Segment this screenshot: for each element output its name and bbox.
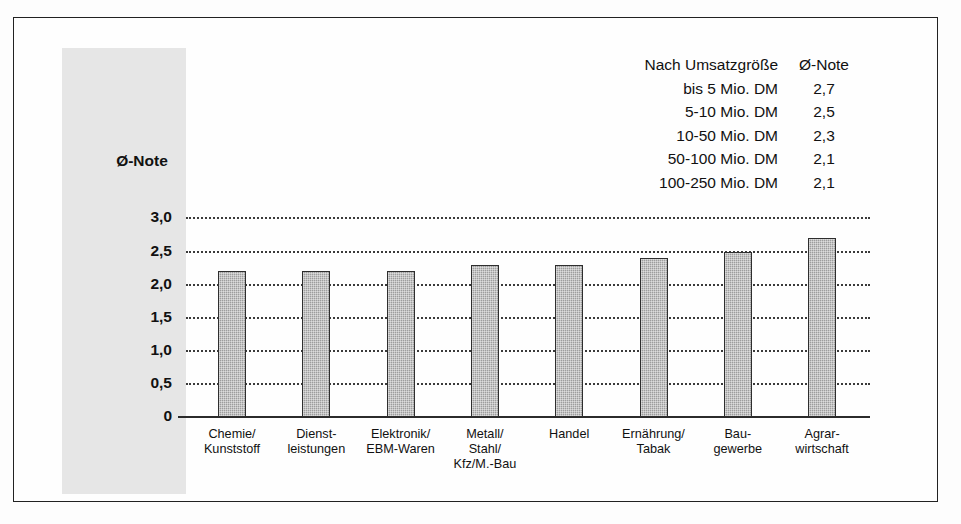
- y-tick-label: 2,5: [112, 242, 172, 260]
- bar: [555, 265, 583, 417]
- y-tick-label: 0,5: [112, 374, 172, 392]
- y-tick-label: 2,0: [112, 275, 172, 293]
- y-axis-title: Ø-Note: [108, 152, 176, 170]
- y-tick-label: 1,5: [112, 308, 172, 326]
- bar: [218, 271, 246, 417]
- category-label: Agrar-wirtschaft: [767, 427, 877, 457]
- summary-table-row-value: 2,5: [778, 103, 870, 121]
- summary-table-row: 5-10 Mio. DM2,5: [560, 103, 870, 127]
- gridline: [186, 317, 870, 319]
- summary-table-row: 50-100 Mio. DM2,1: [560, 150, 870, 174]
- summary-table-header: Nach Umsatzgröße Ø-Note: [560, 56, 870, 80]
- chart-page: Ø-Note 00,51,01,52,02,53,0 Chemie/Kunsts…: [0, 0, 961, 524]
- summary-table-header-label: Nach Umsatzgröße: [560, 56, 778, 74]
- gridline: [186, 350, 870, 352]
- gridline: [186, 284, 870, 286]
- summary-table-row: 100-250 Mio. DM2,1: [560, 174, 870, 198]
- summary-table-row-value: 2,3: [778, 127, 870, 145]
- summary-table-row-value: 2,1: [778, 150, 870, 168]
- bar: [724, 252, 752, 418]
- category-label-line: Agrar-: [767, 427, 877, 442]
- y-tick-label: 0: [112, 407, 172, 425]
- summary-table-row: bis 5 Mio. DM2,7: [560, 80, 870, 104]
- summary-table-body: bis 5 Mio. DM2,75-10 Mio. DM2,510-50 Mio…: [560, 80, 870, 198]
- summary-table-header-value: Ø-Note: [778, 56, 870, 74]
- bar: [640, 258, 668, 417]
- summary-table: Nach Umsatzgröße Ø-Note bis 5 Mio. DM2,7…: [560, 56, 870, 198]
- bar: [808, 238, 836, 417]
- bar: [471, 265, 499, 417]
- y-tick-label: 3,0: [112, 208, 172, 226]
- summary-table-row-value: 2,7: [778, 80, 870, 98]
- summary-table-row-label: 50-100 Mio. DM: [560, 150, 778, 168]
- summary-table-row: 10-50 Mio. DM2,3: [560, 127, 870, 151]
- summary-table-row-label: 100-250 Mio. DM: [560, 174, 778, 192]
- bar: [302, 271, 330, 417]
- gridline: [186, 217, 870, 219]
- y-tick-label: 1,0: [112, 341, 172, 359]
- bar: [387, 271, 415, 417]
- category-label-line: Stahl/: [430, 442, 540, 457]
- gridline: [186, 251, 870, 253]
- summary-table-row-value: 2,1: [778, 174, 870, 192]
- summary-table-row-label: bis 5 Mio. DM: [560, 80, 778, 98]
- x-axis-baseline: [178, 416, 870, 418]
- gridline: [186, 383, 870, 385]
- summary-table-row-label: 10-50 Mio. DM: [560, 127, 778, 145]
- summary-table-row-label: 5-10 Mio. DM: [560, 103, 778, 121]
- category-label-line: wirtschaft: [767, 442, 877, 457]
- category-label-line: Kfz/M.-Bau: [430, 457, 540, 472]
